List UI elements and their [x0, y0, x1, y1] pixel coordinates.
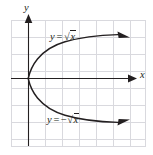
- y-axis-arrowhead: [25, 14, 33, 23]
- plot-canvas: [0, 0, 153, 155]
- upper-curve-equation-label: y=√x: [50, 30, 76, 43]
- upper-label-radicand: x: [70, 30, 76, 42]
- lower-label-radicand: x: [74, 113, 80, 125]
- upper-label-equals: =: [55, 31, 64, 42]
- lower-label-radical-sign: √: [67, 114, 73, 125]
- lower-curve-equation-label: y=−√x: [47, 113, 79, 126]
- upper-curve-arrowhead: [118, 32, 131, 38]
- x-axis-arrowhead: [128, 75, 137, 83]
- x-axis-label: x: [140, 70, 145, 81]
- x-axis: [11, 75, 137, 83]
- graph-figure: y x y=√x y=−√x: [0, 0, 153, 155]
- y-axis-label: y: [24, 3, 29, 14]
- lower-label-equals: =: [52, 114, 61, 125]
